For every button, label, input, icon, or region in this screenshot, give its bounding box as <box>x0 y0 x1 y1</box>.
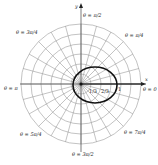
radial-grid-line <box>81 42 123 84</box>
angle-label-3pi-4: θ = 3π/4 <box>16 29 38 35</box>
radial-tick-label-1-3: 1/3 <box>89 88 97 94</box>
y-axis-label: y <box>74 3 78 10</box>
angle-label-pi: θ = π <box>4 85 18 91</box>
polar-graph: y x θ = π/2 θ = 3π/4 θ = π/4 θ = π θ = 0… <box>0 0 158 165</box>
radial-grid-line <box>81 32 111 84</box>
angle-label-pi-2: θ = π/2 <box>83 12 102 18</box>
radial-grid-line <box>51 84 81 136</box>
angle-label-pi-4: θ = π/4 <box>125 32 144 38</box>
x-axis-label: x <box>145 76 148 82</box>
pole-point <box>79 82 82 85</box>
angle-label-0: θ = 0 <box>143 86 157 92</box>
angle-label-7pi-4: θ = 7π/4 <box>124 129 146 135</box>
angle-label-5pi-4: θ = 5π/4 <box>20 131 42 137</box>
radial-tick-label-1: 1 <box>118 86 121 92</box>
radial-tick-label-2-3: 2/3 <box>101 88 109 94</box>
angle-label-3pi-2: θ = 3π/2 <box>72 151 94 157</box>
y-axis-arrow-icon <box>79 3 83 8</box>
